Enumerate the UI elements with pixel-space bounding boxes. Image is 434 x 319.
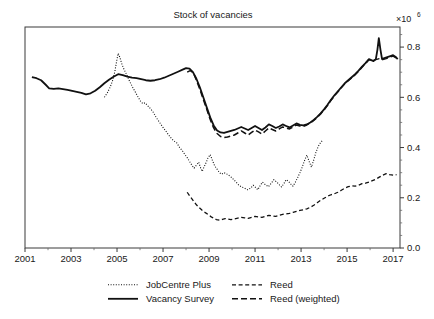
- y-tick-label: 0.6: [407, 92, 420, 103]
- x-tick-label: 2013: [291, 253, 312, 264]
- legend-label: Reed (weighted): [270, 293, 340, 304]
- x-tick-label: 2003: [60, 253, 81, 264]
- x-tick-label: 2017: [383, 253, 404, 264]
- x-tick-label: 2011: [245, 253, 265, 264]
- x-tick-label: 2001: [14, 253, 35, 264]
- x-tick-label: 2007: [152, 253, 173, 264]
- legend-label: JobCentre Plus: [146, 279, 211, 290]
- chart-figure: Stock of vacancies ×10 6 200120032005200…: [0, 0, 434, 319]
- chart-title: Stock of vacancies: [173, 9, 252, 20]
- y-tick-label: 0.2: [407, 192, 420, 203]
- y-tick-label: 0.4: [407, 142, 420, 153]
- chart-legend: JobCentre PlusVacancy SurveyReedReed (we…: [108, 279, 340, 304]
- series-jobcentre-plus: [104, 53, 323, 189]
- y-tick-labels: 0.00.20.40.60.8: [407, 41, 420, 253]
- plot-border: [25, 27, 400, 248]
- chart-title-group: Stock of vacancies: [173, 9, 252, 20]
- x-tick-label: 2015: [337, 253, 358, 264]
- stock-of-vacancies-chart: Stock of vacancies ×10 6 200120032005200…: [0, 0, 434, 319]
- axis-ticks: [25, 35, 404, 252]
- data-series: [32, 38, 398, 220]
- series-reed: [187, 174, 396, 220]
- axis-frame: [25, 27, 400, 248]
- legend-label: Vacancy Survey: [146, 293, 214, 304]
- y-tick-label: 0.0: [407, 242, 420, 253]
- x-tick-label: 2009: [198, 253, 219, 264]
- x-tick-label: 2005: [106, 253, 127, 264]
- y-offset-label: ×10: [396, 14, 411, 24]
- x-tick-labels: 200120032005200720092011201320152017: [14, 253, 403, 264]
- y-tick-label: 0.8: [407, 41, 420, 52]
- y-offset-exponent: 6: [417, 11, 421, 18]
- y-axis-offset-group: ×10 6: [396, 11, 421, 24]
- legend-label: Reed: [270, 279, 293, 290]
